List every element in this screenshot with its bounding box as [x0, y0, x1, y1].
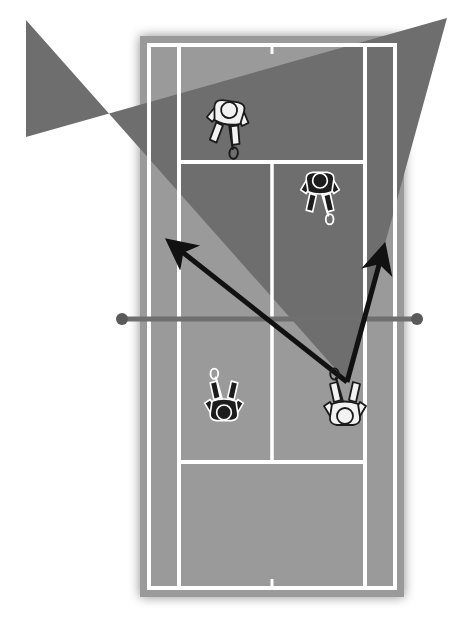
tennis-court-diagram [0, 0, 467, 636]
net-post-right [411, 313, 423, 325]
diagram-stage [0, 0, 467, 636]
net-post-left [116, 313, 128, 325]
